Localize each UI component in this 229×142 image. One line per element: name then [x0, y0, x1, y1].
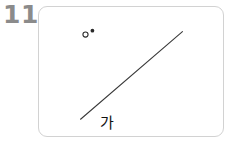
- figure-canvas: [39, 7, 223, 136]
- figure-card: 가: [38, 6, 224, 137]
- vertex-label-ga: 가: [100, 115, 114, 132]
- problem-number: 11: [3, 0, 33, 30]
- diagonal-ray: [81, 32, 183, 120]
- page-root: 11 가: [0, 0, 229, 142]
- hollow-circle-marker: [83, 32, 88, 37]
- filled-dot-marker: [91, 29, 95, 33]
